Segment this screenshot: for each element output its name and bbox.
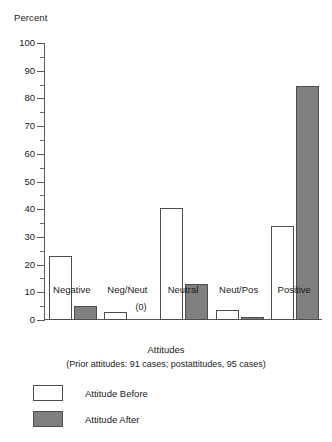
y-tick-mark-minor [40,306,45,307]
chart-footnote: (Prior attitudes: 91 cases; postattitude… [0,359,332,369]
y-tick-mark [37,43,45,44]
x-tick-label: Negative [53,284,91,295]
x-tick-label: Positive [278,284,311,295]
x-axis-title: Attitudes [0,344,332,355]
y-tick-mark-minor [40,278,45,279]
y-tick-mark-minor [40,85,45,86]
legend-label-attitude-before: Attitude Before [85,388,148,399]
y-tick-label: 100 [19,38,35,48]
y-tick-label: 10 [24,288,35,298]
y-axis-title: Percent [14,12,47,23]
y-tick-mark [37,126,45,127]
y-tick-label: 20 [24,260,35,270]
y-tick-mark-minor [40,251,45,252]
y-tick-mark-minor [40,195,45,196]
y-tick-mark [37,98,45,99]
x-tick-label: Neutral [168,284,199,295]
bar [216,310,239,320]
y-tick-mark [37,182,45,183]
y-tick-mark [37,237,45,238]
bar [74,306,97,320]
y-tick-mark [37,292,45,293]
y-tick-label: 0 [30,315,35,325]
y-tick-mark [37,154,45,155]
y-tick-mark-minor [40,168,45,169]
y-tick-mark [37,320,45,321]
y-tick-mark-minor [40,140,45,141]
y-tick-label: 30 [24,232,35,242]
y-tick-mark [37,265,45,266]
bar [271,226,294,320]
bar [160,208,183,320]
y-tick-mark [37,71,45,72]
y-tick-mark [37,209,45,210]
y-tick-label: 60 [24,149,35,159]
y-tick-label: 50 [24,177,35,187]
y-tick-mark-minor [40,57,45,58]
y-tick-label: 70 [24,121,35,131]
x-tick-label: Neut/Pos [219,284,258,295]
plot-area: 0102030405060708090100 (0) [44,43,322,320]
y-tick-mark-minor [40,223,45,224]
y-tick-label: 80 [24,94,35,104]
bar-chart-figure: Percent 0102030405060708090100 (0) Negat… [0,0,332,442]
y-tick-label: 90 [24,66,35,76]
x-tick-label: Neg/Neut [107,284,147,295]
y-tick-label: 40 [24,204,35,214]
legend-label-attitude-after: Attitude After [85,414,139,425]
legend-swatch-attitude-before [33,385,63,401]
bar [241,317,264,320]
zero-value-annotation: (0) [135,302,146,312]
y-tick-mark-minor [40,112,45,113]
bar [104,312,127,320]
legend-swatch-attitude-after [33,411,63,427]
